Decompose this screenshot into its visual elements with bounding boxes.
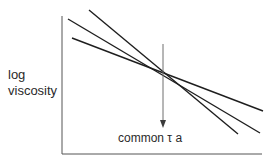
- curve-shallow: [72, 38, 263, 111]
- y-axis-label-line2: viscosity: [8, 83, 57, 98]
- common-tau-annotation: common τ a: [118, 131, 182, 145]
- curve-medium: [68, 19, 260, 133]
- y-axis-label-line1: log: [8, 67, 25, 82]
- arrow-down-icon: [160, 120, 166, 128]
